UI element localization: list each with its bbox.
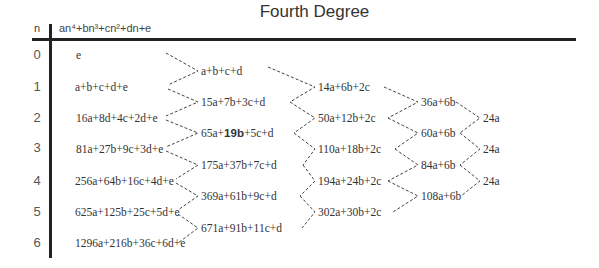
difference-connectors: [0, 0, 599, 268]
